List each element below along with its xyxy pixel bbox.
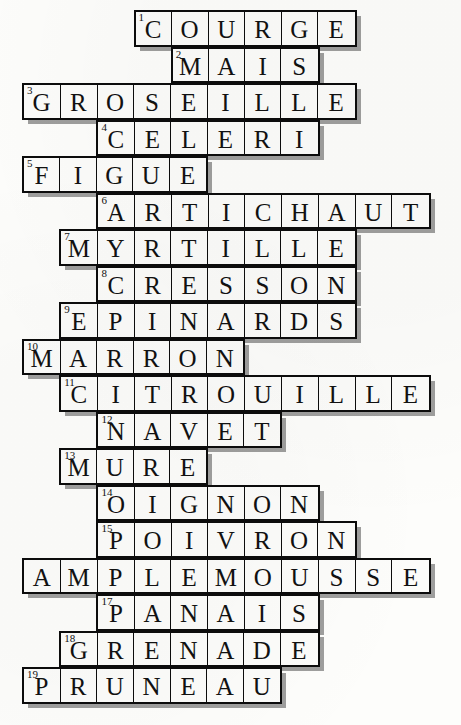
crossword-cell[interactable]: R — [245, 304, 282, 337]
crossword-cell[interactable]: R — [245, 122, 282, 155]
crossword-cell[interactable]: O — [282, 268, 319, 301]
crossword-cell[interactable]: A — [208, 633, 245, 666]
crossword-cell[interactable]: R — [61, 669, 98, 702]
crossword-cell[interactable]: O — [98, 85, 135, 118]
crossword-cell[interactable]: A — [61, 341, 98, 374]
crossword-cell[interactable]: U — [133, 158, 169, 191]
crossword-cell[interactable]: T — [392, 195, 429, 228]
crossword-cell[interactable]: R — [245, 12, 282, 45]
crossword-cell[interactable]: U — [209, 12, 246, 45]
crossword-cell[interactable]: R — [134, 450, 170, 483]
crossword-cell[interactable]: H — [282, 195, 319, 228]
crossword-cell[interactable]: 15P — [98, 523, 135, 556]
crossword-cell[interactable]: V — [208, 523, 245, 556]
crossword-cell[interactable]: O — [170, 341, 207, 374]
crossword-cell[interactable]: N — [134, 669, 171, 702]
crossword-cell[interactable]: A — [24, 560, 61, 593]
crossword-cell[interactable]: 7M — [61, 231, 98, 264]
crossword-cell[interactable]: R — [134, 341, 171, 374]
crossword-cell[interactable]: E — [170, 158, 206, 191]
crossword-cell[interactable]: D — [281, 304, 318, 337]
crossword-cell[interactable]: U — [245, 377, 282, 410]
crossword-cell[interactable]: O — [135, 523, 172, 556]
crossword-cell[interactable]: E — [171, 560, 208, 593]
crossword-cell[interactable]: N — [318, 523, 355, 556]
crossword-cell[interactable]: E — [392, 560, 429, 593]
crossword-cell[interactable]: I — [135, 304, 172, 337]
crossword-cell[interactable]: E — [134, 633, 171, 666]
crossword-cell[interactable]: L — [319, 377, 356, 410]
crossword-cell[interactable]: U — [282, 560, 319, 593]
crossword-cell[interactable]: R — [135, 195, 172, 228]
crossword-cell[interactable]: N — [318, 268, 355, 301]
crossword-cell[interactable]: I — [98, 377, 135, 410]
crossword-cell[interactable]: L — [356, 377, 393, 410]
crossword-cell[interactable]: A — [208, 596, 245, 629]
crossword-cell[interactable]: D — [244, 633, 281, 666]
crossword-cell[interactable]: Y — [98, 231, 135, 264]
crossword-cell[interactable]: L — [245, 85, 282, 118]
crossword-cell[interactable]: O — [208, 377, 245, 410]
crossword-cell[interactable]: A — [208, 304, 245, 337]
crossword-cell[interactable]: O — [172, 12, 209, 45]
crossword-cell[interactable]: 10M — [24, 341, 61, 374]
crossword-cell[interactable]: N — [208, 487, 245, 520]
crossword-cell[interactable]: A — [209, 49, 245, 82]
crossword-cell[interactable]: L — [135, 560, 172, 593]
crossword-cell[interactable]: S — [319, 560, 356, 593]
crossword-cell[interactable]: E — [281, 633, 318, 666]
crossword-cell[interactable]: 17P — [98, 596, 135, 629]
crossword-cell[interactable]: E — [392, 377, 429, 410]
crossword-cell[interactable]: R — [61, 85, 98, 118]
crossword-cell[interactable]: R — [135, 231, 172, 264]
crossword-cell[interactable]: S — [281, 49, 317, 82]
crossword-cell[interactable]: 2M — [173, 49, 209, 82]
crossword-cell[interactable]: I — [208, 231, 245, 264]
crossword-cell[interactable]: U — [97, 669, 134, 702]
crossword-cell[interactable]: I — [245, 596, 282, 629]
crossword-cell[interactable]: 8C — [98, 268, 135, 301]
crossword-cell[interactable]: 19P — [24, 669, 61, 702]
crossword-cell[interactable]: I — [282, 377, 319, 410]
crossword-cell[interactable]: C — [245, 195, 282, 228]
crossword-cell[interactable]: 14O — [98, 487, 135, 520]
crossword-cell[interactable]: O — [245, 560, 282, 593]
crossword-cell[interactable]: L — [171, 122, 208, 155]
crossword-cell[interactable]: T — [244, 414, 280, 447]
crossword-cell[interactable]: 4C — [98, 122, 135, 155]
crossword-cell[interactable]: M — [208, 560, 245, 593]
crossword-cell[interactable]: M — [61, 560, 98, 593]
crossword-cell[interactable]: U — [97, 450, 133, 483]
crossword-cell[interactable]: S — [281, 596, 318, 629]
crossword-cell[interactable]: S — [208, 268, 245, 301]
crossword-cell[interactable]: N — [171, 596, 208, 629]
crossword-cell[interactable]: A — [135, 414, 171, 447]
crossword-cell[interactable]: T — [172, 195, 209, 228]
crossword-cell[interactable]: S — [245, 268, 282, 301]
crossword-cell[interactable]: I — [208, 85, 245, 118]
crossword-cell[interactable]: 1C — [136, 12, 173, 45]
crossword-cell[interactable]: R — [172, 377, 209, 410]
crossword-cell[interactable]: P — [98, 304, 135, 337]
crossword-cell[interactable]: N — [281, 487, 318, 520]
crossword-cell[interactable]: 5F — [24, 158, 60, 191]
crossword-cell[interactable]: E — [318, 12, 355, 45]
crossword-cell[interactable]: E — [208, 414, 244, 447]
crossword-cell[interactable]: E — [318, 85, 355, 118]
crossword-cell[interactable]: G — [97, 158, 133, 191]
crossword-cell[interactable]: I — [172, 523, 209, 556]
crossword-cell[interactable]: L — [245, 231, 282, 264]
crossword-cell[interactable]: I — [281, 122, 318, 155]
crossword-cell[interactable]: N — [171, 304, 208, 337]
crossword-cell[interactable]: I — [209, 195, 246, 228]
crossword-cell[interactable]: 18G — [61, 633, 98, 666]
crossword-cell[interactable]: R — [135, 268, 172, 301]
crossword-cell[interactable]: N — [171, 633, 208, 666]
crossword-cell[interactable]: 3G — [24, 85, 61, 118]
crossword-cell[interactable]: E — [170, 450, 206, 483]
crossword-cell[interactable]: E — [171, 669, 208, 702]
crossword-cell[interactable]: 11C — [61, 377, 98, 410]
crossword-cell[interactable]: E — [135, 122, 172, 155]
crossword-cell[interactable]: S — [318, 304, 355, 337]
crossword-cell[interactable]: L — [281, 85, 318, 118]
